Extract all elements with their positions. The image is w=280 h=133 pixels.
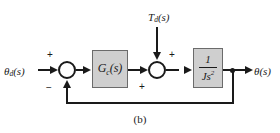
arrowhead-input-to-sum1	[50, 66, 58, 74]
sum2-plus-forward-sign: +	[139, 82, 145, 92]
plant-numerator: 1	[202, 54, 214, 66]
arrowhead-into-controller	[83, 66, 91, 74]
plant-block: 1 Js2	[193, 48, 223, 88]
plant-transfer-function: 1 Js2	[199, 54, 218, 82]
input-signal-label: θd(s)	[4, 66, 25, 78]
arrowhead-disturbance	[153, 52, 161, 60]
wire-disturbance-to-sum2	[156, 27, 158, 53]
controller-label: Gc(s)	[98, 61, 123, 77]
arrowhead-into-plant	[184, 66, 192, 74]
wire-feedback-up	[66, 88, 68, 103]
sum2-plus-disturbance-sign: +	[169, 50, 175, 60]
arrowhead-feedback-into-sum1	[63, 80, 71, 88]
wire-feedback-down	[232, 69, 234, 104]
controller-block: Gc(s)	[92, 50, 128, 88]
arrowhead-output	[245, 66, 253, 74]
wire-sum2-to-plant	[166, 69, 179, 71]
summing-junction-1	[58, 61, 76, 79]
plant-denominator: Js2	[199, 69, 218, 82]
sum1-plus-sign: +	[47, 50, 53, 60]
figure-caption: (b)	[0, 113, 280, 125]
wire-feedback-across	[66, 102, 233, 104]
arrowhead-into-sum2	[140, 66, 148, 74]
output-signal-label: θ(s)	[254, 66, 271, 77]
disturbance-signal-label: Td(s)	[148, 12, 169, 24]
block-diagram-figure: θd(s) + − Gc(s) + Td(s) + 1 Js2 θ(s)	[0, 0, 280, 133]
fraction-bar	[199, 67, 217, 69]
sum1-minus-sign: −	[46, 83, 52, 93]
summing-junction-2	[148, 61, 166, 79]
